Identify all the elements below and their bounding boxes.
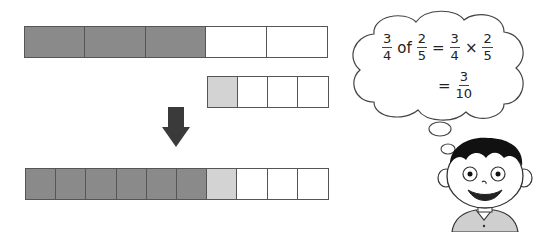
fraction-bar-two-fifths xyxy=(24,26,328,58)
bar-cell-shaded xyxy=(56,169,86,199)
bar-cell-partial xyxy=(208,77,238,107)
down-arrow-icon xyxy=(160,107,192,149)
equation-line-1: 34 of 25 = 34 × 25 xyxy=(382,32,493,63)
bar-cell-empty xyxy=(298,77,328,107)
bar-cell-empty xyxy=(268,77,298,107)
fraction-three-quarters: 34 xyxy=(450,32,460,63)
bar-cell-shaded xyxy=(117,169,147,199)
fraction-bar-quarters xyxy=(207,76,329,108)
boy-character-illustration xyxy=(430,134,540,232)
bar-cell-empty xyxy=(268,169,298,199)
times-sign: × xyxy=(465,39,478,57)
bar-cell-partial xyxy=(207,169,237,199)
bar-cell-empty xyxy=(267,27,327,57)
bar-cell-shaded xyxy=(147,169,177,199)
fraction-two-fifths: 25 xyxy=(417,32,427,63)
equals-sign: = xyxy=(438,77,451,95)
word-of: of xyxy=(397,39,411,57)
fraction-two-fifths: 25 xyxy=(482,32,492,63)
bar-cell-shaded xyxy=(25,27,85,57)
fraction-three-quarters: 34 xyxy=(382,32,392,63)
fraction-three-tenths: 310 xyxy=(456,70,473,101)
bar-cell-empty xyxy=(237,169,267,199)
bar-cell-empty xyxy=(298,169,328,199)
bar-cell-shaded xyxy=(86,169,116,199)
bar-cell-empty xyxy=(238,77,268,107)
fraction-bar-tenths xyxy=(25,168,329,200)
bar-cell-empty xyxy=(206,27,266,57)
bar-cell-shaded xyxy=(146,27,206,57)
bar-cell-shaded xyxy=(177,169,207,199)
equals-sign: = xyxy=(432,39,445,57)
bar-cell-shaded xyxy=(26,169,56,199)
bar-cell-shaded xyxy=(85,27,145,57)
equation-line-2: = 310 xyxy=(433,70,472,101)
